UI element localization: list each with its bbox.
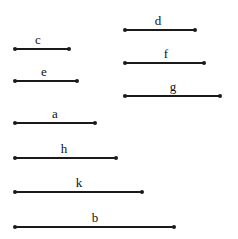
segment-endpoint-right-dot (67, 47, 71, 51)
segment-label-c: c (35, 33, 41, 46)
line-segment-c (14, 48, 70, 50)
segment-line (124, 62, 205, 64)
segment-label-d: d (155, 14, 162, 27)
segment-endpoint-right-dot (202, 61, 206, 65)
segment-label-k: k (76, 176, 83, 189)
segment-endpoint-right-dot (114, 156, 118, 160)
line-segment-d (124, 29, 196, 31)
segment-endpoint-left-dot (13, 121, 17, 125)
segment-line (14, 80, 78, 82)
segment-endpoint-right-dot (172, 225, 176, 229)
segment-endpoint-left-dot (123, 61, 127, 65)
line-segment-f (124, 62, 205, 64)
segment-label-e: e (41, 65, 47, 78)
segment-label-a: a (52, 107, 58, 120)
segment-label-b: b (92, 211, 99, 224)
segment-endpoint-left-dot (123, 94, 127, 98)
segment-endpoint-left-dot (13, 156, 17, 160)
segment-line (14, 157, 117, 159)
segment-line (14, 226, 175, 228)
segment-endpoint-left-dot (13, 225, 17, 229)
segment-endpoint-right-dot (93, 121, 97, 125)
line-segment-a (14, 122, 96, 124)
segment-label-f: f (164, 47, 168, 60)
segment-label-g: g (170, 80, 177, 93)
segment-endpoint-left-dot (13, 190, 17, 194)
segment-diagram-canvas: dcfegahkb (0, 0, 238, 239)
segment-endpoint-left-dot (123, 28, 127, 32)
line-segment-g (124, 95, 221, 97)
segment-line (14, 191, 143, 193)
segment-label-h: h (61, 142, 68, 155)
segment-endpoint-right-dot (140, 190, 144, 194)
segment-line (124, 95, 221, 97)
segment-endpoint-left-dot (13, 47, 17, 51)
line-segment-e (14, 80, 78, 82)
line-segment-b (14, 226, 175, 228)
line-segment-k (14, 191, 143, 193)
segment-line (14, 122, 96, 124)
segment-line (124, 29, 196, 31)
segment-endpoint-right-dot (218, 94, 222, 98)
segment-endpoint-right-dot (75, 79, 79, 83)
line-segment-h (14, 157, 117, 159)
segment-endpoint-left-dot (13, 79, 17, 83)
segment-endpoint-right-dot (193, 28, 197, 32)
segment-line (14, 48, 70, 50)
